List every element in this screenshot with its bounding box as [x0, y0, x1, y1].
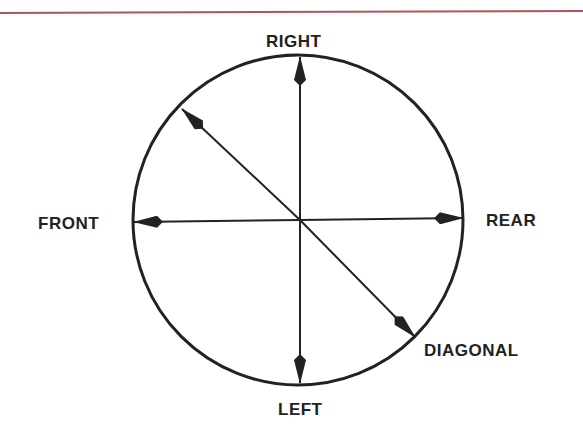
label-diagonal: DIAGONAL — [424, 341, 519, 361]
arrow-diagonal-lower-icon — [300, 220, 415, 337]
arrow-front-icon — [134, 220, 300, 222]
label-rear: REAR — [486, 211, 536, 231]
label-left: LEFT — [278, 400, 323, 420]
label-right: RIGHT — [266, 32, 321, 52]
label-front: FRONT — [38, 214, 99, 234]
arrow-diagonal-upper-icon — [182, 109, 300, 220]
arrow-rear-icon — [300, 218, 463, 220]
